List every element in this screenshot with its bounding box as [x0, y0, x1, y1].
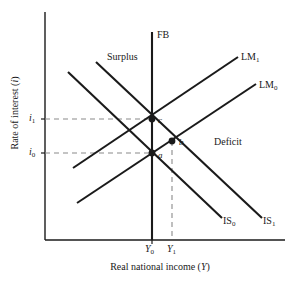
point-label-b: b: [179, 138, 184, 147]
y-axis-title: Rate of interest (i): [10, 53, 20, 173]
curve-label-is1: IS1: [263, 216, 275, 226]
y-tick-label-i0: i0: [29, 147, 35, 157]
curve-sub-is0: 0: [232, 220, 236, 228]
y-tick-sub-i0: 0: [32, 151, 36, 159]
curve-sub-is1: 1: [272, 220, 276, 228]
plot-area: [0, 0, 290, 282]
y-tick-label-i1: i1: [29, 113, 35, 123]
curve-label-fb: FB: [157, 30, 169, 40]
curve-sub-lm0: 0: [274, 84, 278, 92]
x-tick-label-y1: Y1: [167, 244, 176, 254]
x-tick-label-y0: Y0: [145, 244, 154, 254]
region-label-surplus: Surplus: [107, 52, 138, 62]
y-axis-title-var: i: [9, 80, 20, 83]
y-tick-sub-i1: 1: [32, 117, 36, 125]
point-marker-b: [169, 138, 176, 145]
x-axis-title: Real national income (Y): [60, 262, 260, 272]
region-label-deficit: Deficit: [214, 137, 242, 147]
point-label-c: c: [158, 116, 162, 125]
curve-label-lm1: LM1: [241, 52, 260, 62]
point-label-a: a: [158, 151, 163, 160]
point-marker-a: [149, 150, 156, 157]
is-lm-fb-diagram: i1 i0 Y0 Y1 FB LM1 LM0 IS0 IS1 Surplus D…: [0, 0, 290, 282]
point-marker-c: [149, 116, 156, 123]
x-tick-sub-y0: 0: [151, 248, 155, 256]
curve-label-lm0: LM0: [259, 80, 278, 90]
x-tick-sub-y1: 1: [173, 248, 177, 256]
curve-is0: [68, 72, 222, 218]
curve-sub-lm1: 1: [256, 56, 260, 64]
curve-label-is0: IS0: [223, 216, 235, 226]
